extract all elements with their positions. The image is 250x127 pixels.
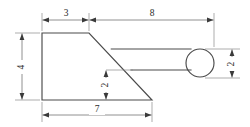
head-body-outline [42,33,152,100]
dimension-bottom-width: 7 [42,102,152,122]
dimension-left-height: 4 [14,33,40,100]
dim-label-7: 7 [95,104,100,114]
dim-label-3: 3 [64,8,69,18]
dimension-top-right-length: 8 [90,8,215,47]
technical-drawing-canvas: 3 8 4 7 2 [0,0,250,127]
dimension-top-left-width: 3 [42,8,89,31]
part-geometry-group [42,33,214,100]
dim-label-2-ball: 2 [226,61,236,66]
dim-label-2-middle: 2 [100,82,110,87]
ball-end-circle [186,49,214,77]
dim-label-4: 4 [16,64,26,69]
dim-label-8: 8 [150,8,155,18]
drawing-svg-root: 3 8 4 7 2 [0,0,250,127]
